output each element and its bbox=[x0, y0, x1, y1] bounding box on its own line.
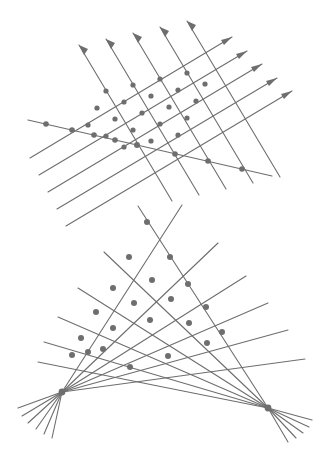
lower-pencil-left-vanishing-point bbox=[18, 205, 305, 438]
node bbox=[184, 70, 189, 75]
arrow-up-left-2 bbox=[106, 39, 115, 49]
node bbox=[157, 121, 162, 126]
line-up-right-5 bbox=[66, 91, 292, 226]
line-left-vp-2 bbox=[62, 243, 218, 392]
line-left-vp-tail-3 bbox=[28, 392, 62, 423]
node bbox=[100, 346, 106, 352]
vanishing-point-left bbox=[59, 389, 66, 396]
node bbox=[205, 158, 211, 164]
lower-panel-projective-lattice bbox=[18, 205, 312, 442]
arrow-up-right-1 bbox=[221, 37, 232, 45]
node bbox=[103, 88, 108, 93]
upper-panel-affine-lattice bbox=[28, 21, 292, 226]
node bbox=[110, 325, 116, 331]
arrow-up-left-1 bbox=[79, 45, 88, 55]
node bbox=[126, 254, 132, 260]
node bbox=[110, 285, 116, 291]
line-right-vp-4 bbox=[58, 317, 268, 408]
node bbox=[130, 127, 135, 132]
line-right-vp-tail-4 bbox=[268, 408, 296, 438]
node bbox=[139, 110, 144, 115]
node bbox=[85, 349, 91, 355]
node bbox=[165, 353, 171, 359]
node bbox=[148, 93, 153, 98]
node bbox=[172, 151, 178, 157]
upper-arrowheads-up-left bbox=[79, 21, 196, 55]
node bbox=[130, 82, 135, 87]
node bbox=[127, 364, 133, 370]
upper-transversal-line bbox=[28, 120, 272, 176]
line-left-vp-6 bbox=[62, 359, 305, 392]
line-right-vp-tail-3 bbox=[268, 408, 303, 433]
node bbox=[184, 115, 189, 120]
lattice-figure-root: Two lattice configurations Parallelogram… bbox=[0, 0, 330, 450]
vanishing-point-right bbox=[265, 405, 272, 412]
node bbox=[168, 296, 174, 302]
node bbox=[203, 304, 209, 310]
node bbox=[131, 300, 137, 306]
line-transversal bbox=[28, 120, 272, 176]
node bbox=[185, 281, 191, 287]
node bbox=[147, 317, 153, 323]
node bbox=[167, 254, 173, 260]
node bbox=[103, 133, 108, 138]
arrow-up-right-2 bbox=[236, 51, 247, 59]
node bbox=[121, 144, 126, 149]
node bbox=[204, 340, 210, 346]
node bbox=[219, 329, 225, 335]
lower-lattice-nodes bbox=[69, 219, 225, 370]
node bbox=[91, 132, 97, 138]
node bbox=[93, 309, 99, 315]
node bbox=[202, 81, 207, 86]
lattice-figure-svg bbox=[0, 0, 330, 450]
node bbox=[175, 87, 180, 92]
arrow-up-right-5 bbox=[281, 91, 292, 99]
node bbox=[193, 98, 198, 103]
node bbox=[186, 320, 192, 326]
arrow-up-right-3 bbox=[251, 64, 262, 72]
node bbox=[85, 122, 90, 127]
line-right-vp-3 bbox=[78, 288, 268, 408]
arrow-up-left-3 bbox=[133, 33, 142, 43]
node bbox=[144, 219, 150, 225]
node bbox=[112, 116, 117, 121]
line-up-right-4 bbox=[57, 78, 277, 209]
node bbox=[69, 352, 75, 358]
node bbox=[121, 99, 126, 104]
arrow-up-left-5 bbox=[187, 21, 196, 31]
node bbox=[43, 121, 49, 127]
node bbox=[148, 138, 153, 143]
line-right-vp-2 bbox=[104, 252, 268, 408]
arrow-up-left-4 bbox=[160, 27, 169, 37]
node bbox=[78, 335, 84, 341]
node bbox=[157, 76, 162, 81]
node bbox=[134, 142, 140, 148]
line-up-left-5 bbox=[187, 21, 280, 177]
node bbox=[166, 104, 171, 109]
node bbox=[69, 127, 75, 133]
node bbox=[112, 137, 118, 143]
node bbox=[149, 277, 155, 283]
node bbox=[175, 132, 180, 137]
node bbox=[239, 166, 245, 172]
node bbox=[94, 105, 99, 110]
arrow-up-right-4 bbox=[266, 78, 277, 86]
